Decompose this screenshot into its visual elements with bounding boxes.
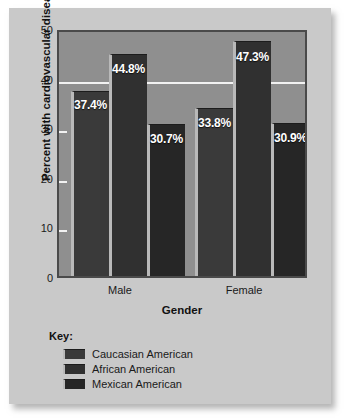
legend-title: Key: [49, 330, 279, 342]
x-tick-label-male: Male [57, 284, 183, 296]
y-tick-label: 0 [27, 272, 53, 284]
bar-female-african [233, 41, 271, 276]
legend: Key: Caucasian American African American… [49, 330, 279, 391]
bar-value-male-caucasian: 37.4% [74, 98, 107, 112]
gridline-10 [59, 230, 67, 232]
legend-label-african: African American [92, 363, 175, 375]
x-tick-label-female: Female [181, 284, 307, 296]
y-tick-label: 10 [27, 222, 53, 234]
legend-swatch-icon-mexican [63, 379, 85, 389]
x-axis-title: Gender [57, 304, 307, 316]
gridline-30 [59, 131, 67, 133]
y-axis-title: Percent with cardiovascular disease [40, 0, 52, 197]
gridline-20 [59, 181, 67, 183]
legend-item-african-american: African American [63, 361, 279, 376]
plot-area: 37.4% 44.8% 30.7% 33.8% 47.3% 30.9% [57, 30, 307, 278]
bar-male-caucasian [71, 91, 109, 277]
bar-male-african [109, 54, 147, 276]
legend-label-mexican: Mexican American [92, 378, 182, 390]
bar-female-mexican [271, 123, 307, 276]
bar-value-female-african: 47.3% [236, 50, 269, 64]
legend-item-mexican-american: Mexican American [63, 376, 279, 391]
bar-value-female-caucasian: 33.8% [198, 116, 231, 130]
chart-card: 50 40 30 20 10 0 Percent with cardiovasc… [9, 8, 331, 404]
bar-male-mexican [147, 124, 185, 276]
bar-value-male-african: 44.8% [112, 62, 145, 76]
bar-value-female-mexican: 30.9% [274, 131, 307, 145]
legend-swatch-icon-caucasian [63, 349, 85, 359]
bar-female-caucasian [195, 108, 233, 276]
legend-item-caucasian-american: Caucasian American [63, 346, 279, 361]
bar-value-male-mexican: 30.7% [150, 132, 183, 146]
legend-swatch-icon-african [63, 364, 85, 374]
legend-label-caucasian: Caucasian American [92, 348, 193, 360]
